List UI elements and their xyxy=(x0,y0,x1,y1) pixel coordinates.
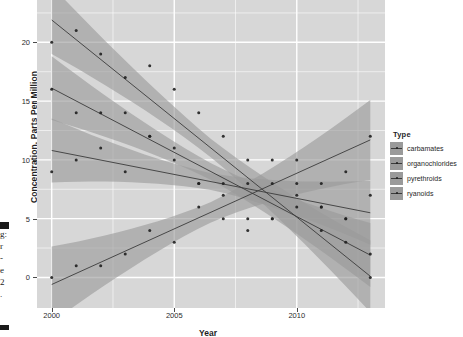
y-tick-label: 5 xyxy=(6,215,30,224)
y-tick-mark xyxy=(33,42,37,43)
x-tick-mark xyxy=(297,308,298,312)
clipped-side-text: g: r - e 2 . xyxy=(0,228,12,300)
legend-item-label: organochlorides xyxy=(407,160,457,167)
clipped-line: - xyxy=(0,252,12,264)
clipped-marker-bottom xyxy=(0,325,9,330)
y-tick-mark xyxy=(33,219,37,220)
legend-items: carbamatesorganochloridespyrethroidsryan… xyxy=(390,142,463,200)
clipped-line: . xyxy=(0,288,12,300)
y-tick-mark xyxy=(33,101,37,102)
y-tick-mark xyxy=(33,277,37,278)
legend-item-label: ryanoids xyxy=(407,190,433,197)
legend: Type carbamatesorganochloridespyrethroid… xyxy=(390,130,463,202)
clipped-line: g: xyxy=(0,228,12,240)
legend-item-organochlorides[interactable]: organochlorides xyxy=(390,157,463,170)
legend-title: Type xyxy=(393,130,463,139)
x-tick-label: 2010 xyxy=(277,311,317,320)
y-tick-label: 0 xyxy=(6,273,30,282)
y-tick-label: 15 xyxy=(6,97,30,106)
x-tick-label: 2000 xyxy=(32,311,72,320)
legend-key-swatch xyxy=(390,157,403,170)
x-tick-label: 2005 xyxy=(154,311,194,320)
plot-svg xyxy=(37,0,385,308)
plot-panel xyxy=(37,0,385,308)
legend-key-swatch xyxy=(390,142,403,155)
chart-page: g: r - e 2 . Concentration, Parts Per Mi… xyxy=(0,0,463,337)
x-tick-mark xyxy=(174,308,175,312)
y-tick-mark xyxy=(33,160,37,161)
x-tick-mark xyxy=(52,308,53,312)
x-axis-title: Year xyxy=(148,328,268,337)
legend-item-carbamates[interactable]: carbamates xyxy=(390,142,463,155)
clipped-line: r xyxy=(0,240,12,252)
legend-item-label: carbamates xyxy=(407,145,444,152)
legend-key-swatch xyxy=(390,172,403,185)
y-tick-label: 20 xyxy=(6,38,30,47)
legend-item-label: pyrethroids xyxy=(407,175,442,182)
legend-item-ryanoids[interactable]: ryanoids xyxy=(390,187,463,200)
y-tick-label: 10 xyxy=(6,156,30,165)
legend-item-pyrethroids[interactable]: pyrethroids xyxy=(390,172,463,185)
legend-key-swatch xyxy=(390,187,403,200)
